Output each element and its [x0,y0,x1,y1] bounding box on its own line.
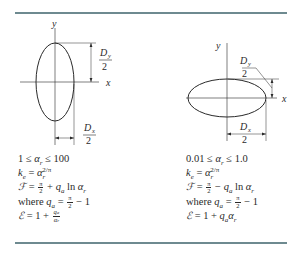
right-dy-num: D [239,55,248,66]
arrowhead-icon [55,137,59,140]
right-range-formula: 0.01 ≤ αr ≤ 1.0 [186,152,258,166]
left-dx-sub: x [91,127,95,134]
right-ke-formula: ke = αr2/π [186,166,258,180]
arrowhead-icon [271,79,274,83]
pi-over-2-fraction: π2 [235,195,240,209]
arrowhead-icon [227,133,231,136]
operator: + [211,210,217,221]
arrowhead-icon [70,137,74,140]
where-word: where [18,196,44,207]
left-dx-den: 2 [86,135,91,146]
subscript: a [57,210,60,215]
right-E-formula: ℰ = 1 + qaαr [186,209,258,223]
F-symbol: ℱ [186,181,194,192]
left-x-label: x [105,77,111,88]
pi-over-2-fraction: π2 [38,181,43,195]
where-word: where [186,196,212,207]
exponent: 2/π [42,166,51,174]
denominator: αr [53,217,61,225]
one: 1 [35,210,40,221]
pi-over-2-fraction: π2 [67,195,72,209]
operator: + [47,181,53,192]
arrowhead-icon [262,133,266,136]
left-dy-sub: y [107,52,111,59]
right-dx-sub: x [247,126,251,133]
right-dy-sub: y [247,60,251,67]
left-y-label: y [51,18,57,29]
left-dy-num: D [99,47,108,58]
right-dy-den: 2 [242,68,247,79]
left-E-formula: ℰ = 1 + qaαr [18,209,90,223]
operator: − [215,181,221,192]
left-dy-den: 2 [102,61,107,72]
E-symbol: ℰ [18,210,24,221]
left-where-formula: where qa = π2 − 1 [18,195,90,209]
arrowhead-icon [271,94,274,98]
denominator: 2 [206,188,211,195]
qa-over-alpha-fraction: qaαr [53,209,61,225]
subscript: r [221,159,224,167]
right-dx-num: D [239,121,248,132]
denominator: 2 [38,188,43,195]
arrowhead-icon [90,78,93,82]
denominator: 2 [67,203,72,210]
E-symbol: ℰ [186,210,192,221]
subscript: r [234,216,237,224]
right-formulas: 0.01 ≤ αr ≤ 1.0 ke = αr2/π ℱ = π2 − qa l… [186,152,258,223]
range-upper: 100 [54,153,70,164]
exponent: 2/π [210,166,219,174]
F-symbol: ℱ [18,181,26,192]
minus-one: − 1 [76,196,90,207]
ln-function: ln [67,181,75,192]
left-range-formula: 1 ≤ αr ≤ 100 [18,152,90,166]
left-F-formula: ℱ = π2 + qa ln αr [18,180,90,194]
right-labels: y x D y 2 D x 2 [215,40,287,145]
right-y-label: y [215,40,221,51]
left-dx-num: D [83,122,92,133]
range-lower: 1 [18,153,23,164]
left-ke-formula: ke = αr2/π [18,166,90,180]
minus-one: − 1 [244,196,258,207]
right-F-formula: ℱ = π2 − qa ln αr [186,180,258,194]
arrowhead-icon [90,43,93,47]
pi-over-2-fraction: π2 [206,181,211,195]
right-where-formula: where qa = π2 − 1 [186,195,258,209]
right-x-label: x [281,93,287,104]
subscript: r [57,218,59,223]
right-diagram [186,43,279,141]
ln-function: ln [235,181,243,192]
operator: + [43,210,49,221]
one: 1 [203,210,208,221]
bottom-rule [15,242,287,244]
range-lower: 0.01 [186,153,204,164]
left-formulas: 1 ≤ αr ≤ 100 ke = αr2/π ℱ = π2 + qa ln α… [18,152,90,223]
range-upper: 1.0 [235,153,248,164]
right-dx-den: 2 [242,134,247,145]
